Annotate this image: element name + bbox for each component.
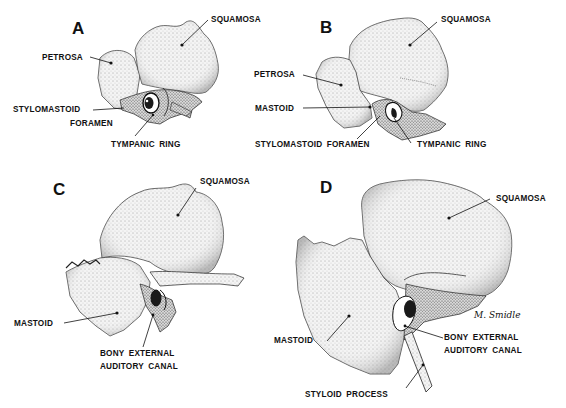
label-a-tympanic-ring: TYMPANIC RING: [111, 141, 181, 149]
label-a-stylomastoid: STYLOMASTOID: [13, 106, 80, 114]
label-c-canal-line1: BONY EXTERNAL: [100, 350, 175, 358]
illustrator-signature: M. Smidle: [474, 311, 520, 320]
panel-letter-a: A: [72, 20, 84, 37]
label-c-canal-line2: AUDITORY CANAL: [100, 363, 178, 371]
label-c-mastoid: MASTOID: [14, 320, 53, 328]
label-d-canal-line1: BONY EXTERNAL: [444, 334, 519, 342]
label-d-squamosa: SQUAMOSA: [496, 195, 546, 203]
label-b-mastoid: MASTOID: [255, 105, 294, 113]
panel-b-bone: [316, 18, 448, 140]
label-d-mastoid: MASTOID: [274, 337, 313, 345]
panel-d-bone: [296, 180, 512, 392]
temporal-bone-figure: A B C D SQUAMOSA PETROSA STYLOMASTOID FO…: [0, 0, 566, 408]
panel-letter-b: B: [320, 19, 332, 36]
label-d-styloid-process: STYLOID PROCESS: [305, 391, 388, 399]
label-d-canal-line2: AUDITORY CANAL: [444, 347, 522, 355]
label-a-squamosa: SQUAMOSA: [211, 16, 261, 24]
label-a-foramen: FORAMEN: [70, 120, 113, 128]
label-b-tympanic-ring: TYMPANIC RING: [417, 141, 487, 149]
label-a-petrosa: PETROSA: [42, 54, 83, 62]
label-b-stylomastoid-foramen: STYLOMASTOID FORAMEN: [255, 141, 370, 149]
panel-letter-c: C: [53, 181, 65, 198]
label-b-petrosa: PETROSA: [254, 71, 295, 79]
panel-c-bone: [66, 184, 244, 336]
label-b-squamosa: SQUAMOSA: [441, 16, 491, 24]
panel-letter-d: D: [320, 179, 332, 196]
label-c-squamosa: SQUAMOSA: [200, 178, 250, 186]
